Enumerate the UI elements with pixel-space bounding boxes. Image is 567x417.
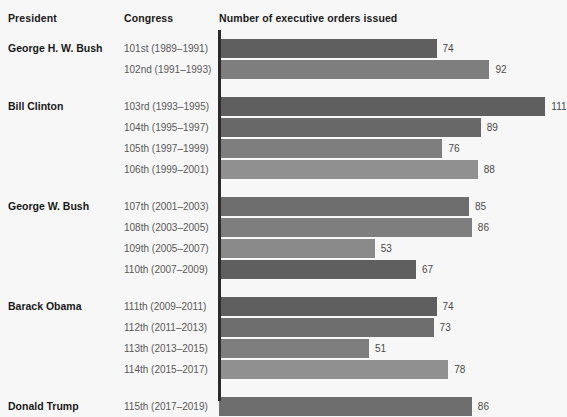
bar-value-label: 111	[551, 96, 566, 117]
congress-row: 110th (2007–2009)67	[0, 259, 564, 280]
congress-row: 104th (1995–1997)89	[0, 117, 564, 138]
congress-label: 102nd (1991–1993)	[124, 59, 211, 80]
congress-row: 108th (2003–2005)86	[0, 217, 564, 238]
congress-label: 113th (2013–2015)	[124, 338, 208, 359]
congress-row: 112th (2011–2013)73	[0, 317, 564, 338]
congress-label: 107th (2001–2003)	[124, 196, 209, 217]
bar	[219, 197, 469, 216]
column-header-row: President Congress Number of executive o…	[0, 0, 564, 30]
congress-row: 106th (1999–2001)88	[0, 159, 564, 180]
bar	[219, 339, 369, 358]
congress-label: 104th (1995–1997)	[124, 117, 209, 138]
bar	[219, 118, 481, 137]
bar-value-label: 92	[495, 59, 506, 80]
bar	[219, 260, 416, 279]
bar-value-label: 76	[448, 138, 459, 159]
column-header-measure: Number of executive orders issued	[219, 12, 397, 24]
bar-value-label: 67	[422, 259, 433, 280]
bar	[219, 239, 375, 258]
bar	[219, 97, 545, 116]
congress-label: 109th (2005–2007)	[124, 238, 209, 259]
congress-row: 109th (2005–2007)53	[0, 238, 564, 259]
congress-row: 114th (2015–2017)78	[0, 359, 564, 380]
congress-row: 103rd (1993–1995)111	[0, 96, 564, 117]
bar-value-label: 74	[443, 38, 454, 59]
bar-value-label: 88	[484, 159, 495, 180]
congress-row: 105th (1997–1999)76	[0, 138, 564, 159]
congress-label: 105th (1997–1999)	[124, 138, 209, 159]
bar	[219, 39, 437, 58]
president-label: George W. Bush	[8, 200, 89, 212]
bar-value-label: 53	[381, 238, 392, 259]
column-header-president: President	[8, 12, 57, 24]
congress-label: 112th (2011–2013)	[124, 317, 207, 338]
congress-label: 108th (2003–2005)	[124, 217, 209, 238]
bar-value-label: 74	[443, 296, 454, 317]
bar-value-label: 86	[478, 396, 489, 417]
president-label: Donald Trump	[8, 400, 79, 412]
column-header-congress: Congress	[124, 12, 173, 24]
bar-value-label: 51	[375, 338, 386, 359]
bar-value-label: 86	[478, 217, 489, 238]
congress-label: 111th (2009–2011)	[124, 296, 206, 317]
congress-row: 113th (2013–2015)51	[0, 338, 564, 359]
bar	[219, 160, 478, 179]
vertical-axis-line	[218, 30, 221, 401]
president-label: George H. W. Bush	[8, 42, 103, 54]
bar	[219, 397, 472, 416]
president-label: Barack Obama	[8, 300, 82, 312]
president-label: Bill Clinton	[8, 100, 63, 112]
bar	[219, 60, 489, 79]
bar	[219, 318, 434, 337]
bar	[219, 218, 472, 237]
congress-label: 115th (2017–2019)	[124, 396, 208, 417]
congress-label: 106th (1999–2001)	[124, 159, 209, 180]
congress-label: 110th (2007–2009)	[124, 259, 208, 280]
bar-value-label: 73	[440, 317, 451, 338]
bar-value-label: 89	[487, 117, 498, 138]
congress-row: 102nd (1991–1993)92	[0, 59, 564, 80]
congress-row: 111th (2009–2011)74	[0, 296, 564, 317]
bar	[219, 297, 437, 316]
congress-row: 115th (2017–2019)86	[0, 396, 564, 417]
bar-value-label: 85	[475, 196, 486, 217]
congress-label: 103rd (1993–1995)	[124, 96, 209, 117]
bar	[219, 139, 442, 158]
congress-label: 114th (2015–2017)	[124, 359, 208, 380]
bar-value-label: 78	[454, 359, 465, 380]
congress-label: 101st (1989–1991)	[124, 38, 208, 59]
bar	[219, 360, 448, 379]
